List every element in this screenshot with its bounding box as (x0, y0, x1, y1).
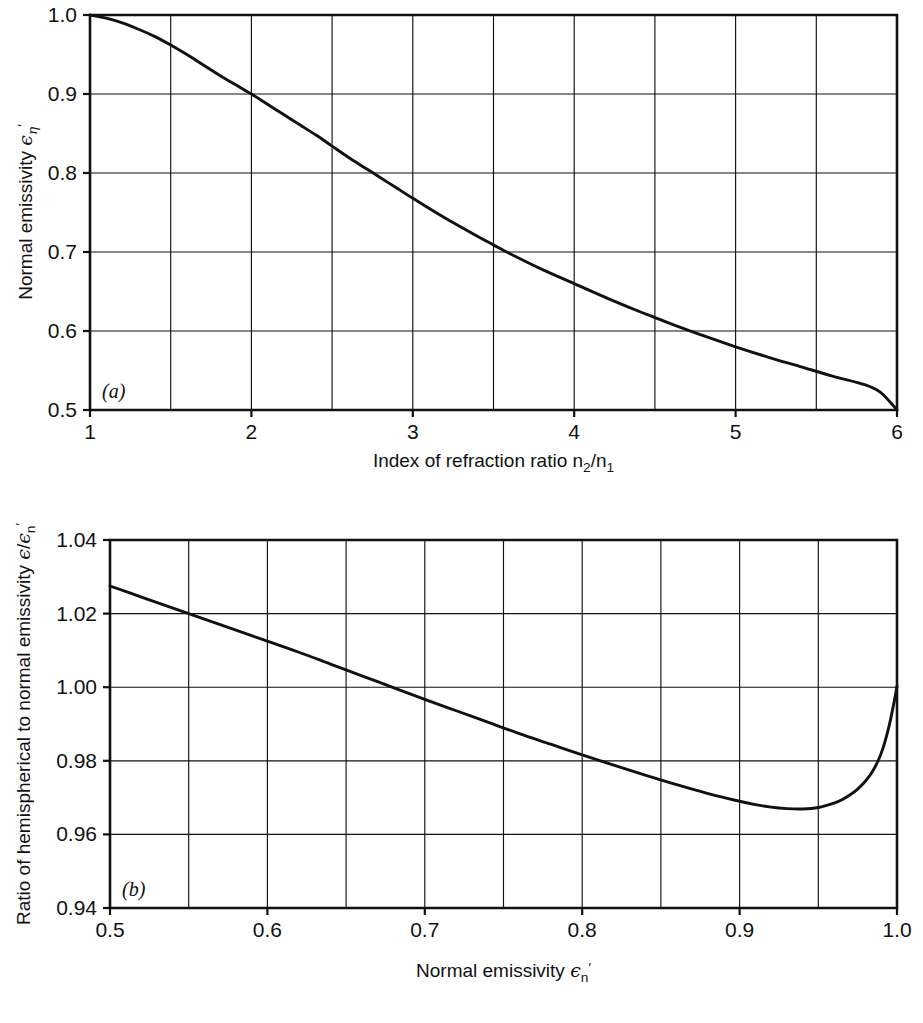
y-axis: 0.940.960.981.001.021.04 (56, 528, 110, 919)
emissivity-figure: 0.50.60.70.80.91.0123456(a)Index of refr… (0, 0, 923, 1023)
y-tick-label: 0.6 (48, 319, 77, 342)
x-tick-label: 0.9 (725, 918, 754, 941)
y-tick-label: 0.94 (56, 896, 97, 919)
y-tick-label: 1.00 (56, 675, 97, 698)
x-tick-label: 2 (246, 420, 258, 443)
panel-label: (b) (122, 878, 146, 901)
x-tick-label: 5 (730, 420, 742, 443)
x-axis: 123456 (84, 410, 903, 443)
grid-lines (90, 15, 897, 410)
y-axis: 0.50.60.70.80.91.0 (48, 3, 90, 421)
chart-b-canvas: 0.940.960.981.001.021.040.50.60.70.80.91… (0, 490, 923, 1023)
panel-label: (a) (102, 380, 126, 403)
x-tick-label: 0.5 (95, 918, 124, 941)
grid-lines (110, 540, 897, 908)
y-tick-label: 0.96 (56, 822, 97, 845)
y-tick-label: 1.0 (48, 3, 77, 26)
y-tick-label: 1.02 (56, 602, 97, 625)
x-tick-label: 3 (407, 420, 419, 443)
chart-panel-b: 0.940.960.981.001.021.040.50.60.70.80.91… (0, 490, 923, 1023)
y-axis-title: Ratio of hemispherical to normal emissiv… (12, 523, 38, 926)
x-tick-label: 0.8 (568, 918, 597, 941)
x-tick-label: 1.0 (882, 918, 911, 941)
y-tick-label: 0.8 (48, 161, 77, 184)
y-tick-label: 0.98 (56, 749, 97, 772)
y-axis-title: Normal emissivity ϵη′ (14, 124, 40, 300)
x-tick-label: 0.7 (410, 918, 439, 941)
y-tick-label: 0.9 (48, 82, 77, 105)
chart-a-canvas: 0.50.60.70.80.91.0123456(a)Index of refr… (0, 0, 923, 500)
x-axis-title: Normal emissivity ϵn′ (416, 959, 591, 985)
x-tick-label: 0.6 (253, 918, 282, 941)
x-tick-label: 1 (84, 420, 96, 443)
y-tick-label: 1.04 (56, 528, 97, 551)
chart-panel-a: 0.50.60.70.80.91.0123456(a)Index of refr… (0, 0, 923, 500)
x-tick-label: 6 (891, 420, 903, 443)
x-axis: 0.50.60.70.80.91.0 (95, 908, 911, 941)
y-tick-label: 0.5 (48, 398, 77, 421)
x-axis-title: Index of refraction ratio n2/n1 (373, 450, 614, 475)
x-tick-label: 4 (568, 420, 580, 443)
y-tick-label: 0.7 (48, 240, 77, 263)
